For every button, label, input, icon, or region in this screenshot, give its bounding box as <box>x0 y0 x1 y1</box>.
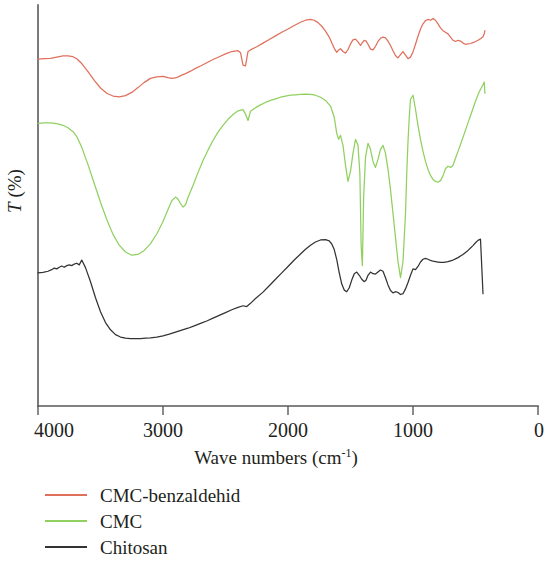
legend-item[interactable]: Chitosan <box>45 534 525 560</box>
spectrum-curves <box>38 19 485 339</box>
x-axis-title-superscript: -1 <box>341 446 351 460</box>
legend-item-label: CMC <box>100 512 142 531</box>
x-tick-label: 1000 <box>393 419 433 442</box>
legend-item[interactable]: CMC <box>45 508 525 534</box>
legend-color-swatch <box>45 520 87 522</box>
y-axis-title-unit: (%) <box>4 169 25 202</box>
x-axis-title: Wave numbers (cm-1) <box>0 447 552 469</box>
spectrum-line-chitosan <box>38 239 483 338</box>
x-tick-label: 4000 <box>34 419 74 442</box>
y-axis-title: T (%) <box>4 155 26 227</box>
ftir-spectra-figure: 40003000200010000 Wave numbers (cm-1) T … <box>0 0 552 563</box>
legend-item[interactable]: CMC-benzaldehid <box>45 482 525 508</box>
y-axis-title-variable: T <box>4 202 25 213</box>
x-tick-label: 3000 <box>143 419 183 442</box>
spectrum-line-cmc-benzaldehid <box>38 19 485 97</box>
legend-color-swatch <box>45 546 87 548</box>
x-axis-title-close: ) <box>351 447 357 468</box>
legend-color-swatch <box>45 494 87 496</box>
x-axis-title-main: Wave numbers (cm <box>194 447 341 468</box>
plot-area <box>0 0 552 563</box>
x-axis-ticks <box>38 406 538 415</box>
legend-item-label: CMC-benzaldehid <box>100 486 240 505</box>
spectrum-line-cmc <box>38 82 485 278</box>
x-tick-label: 2000 <box>268 419 308 442</box>
legend-item-label: Chitosan <box>100 538 168 557</box>
x-tick-label: 0 <box>534 419 544 442</box>
legend: CMC-benzaldehidCMCChitosan <box>45 482 525 560</box>
